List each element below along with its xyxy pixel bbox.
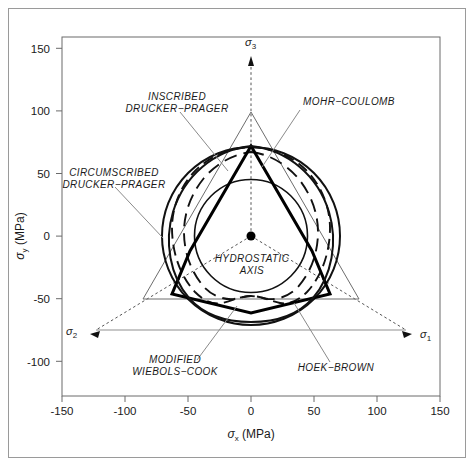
annotation-line-1: CIRCUMSCRIBED — [69, 167, 159, 178]
y-tick-label: -50 — [33, 293, 50, 305]
x-tick-label: -150 — [50, 405, 73, 417]
annotation-line-1: HOEK−BROWN — [298, 362, 375, 373]
annotation-line-1: MODIFIED — [149, 354, 201, 365]
hydrostatic-axis-label: HYDROSTATIC AXIS — [215, 253, 290, 276]
x-tick-label: -100 — [113, 405, 136, 417]
plot-box — [62, 37, 440, 396]
y-tick-label: 50 — [37, 168, 50, 180]
leader-circumscribed-drucker-prager — [115, 187, 163, 238]
hydrostatic-axis-dot — [247, 232, 256, 241]
y-tick-label: -100 — [27, 356, 50, 368]
x-axis-title: σx (MPa) — [227, 427, 274, 443]
svg-text:AXIS: AXIS — [239, 265, 264, 276]
sigma-2-arrowhead — [90, 331, 100, 338]
x-tick-label: 100 — [367, 405, 386, 417]
annotation-leaders — [115, 110, 330, 362]
annotation-mohr-coulomb: MOHR−COULOMB — [303, 96, 395, 107]
x-axis-title-unit: (MPa) — [239, 427, 275, 441]
leader-modified-wiebols-cook — [197, 306, 237, 360]
y-axis-tick-labels: 150 100 50 0 -50 -100 — [27, 43, 50, 368]
pi-plane-plot: 150 100 50 0 -50 -100 -150 -100 -50 0 50… — [0, 0, 476, 468]
x-tick-label: -50 — [180, 405, 197, 417]
sigma-3-arrowhead — [248, 56, 254, 66]
sigma-1-label: σ1 — [420, 328, 432, 343]
annotation-line-1: MOHR−COULOMB — [303, 96, 395, 107]
annotation-line-2: DRUCKER−PRAGER — [62, 179, 165, 190]
y-tick-label: 0 — [44, 230, 50, 242]
x-tick-label: 0 — [248, 405, 254, 417]
x-tick-label: 50 — [308, 405, 321, 417]
annotation-circumscribed-drucker-prager: CIRCUMSCRIBED DRUCKER−PRAGER — [62, 167, 165, 190]
svg-text:σy (MPa): σy (MPa) — [13, 212, 29, 259]
y-tick-label: 100 — [31, 105, 50, 117]
y-axis-title: σy (MPa) — [13, 212, 29, 259]
y-tick-label: 150 — [31, 43, 50, 55]
sigma-3-label: σ3 — [245, 36, 257, 51]
sigma-1-arrowhead — [402, 331, 412, 338]
annotation-modified-wiebols-cook: MODIFIED WIEBOLS−COOK — [132, 354, 219, 377]
annotation-inscribed-drucker-prager: INSCRIBED DRUCKER−PRAGER — [125, 91, 228, 114]
annotation-line-2: WIEBOLS−COOK — [132, 366, 219, 377]
annotation-line-1: INSCRIBED — [148, 91, 206, 102]
x-tick-label: 150 — [430, 405, 449, 417]
sigma-2-label: σ2 — [66, 325, 78, 340]
y-axis-ticks — [56, 48, 62, 361]
x-axis-tick-labels: -150 -100 -50 0 50 100 150 — [50, 405, 449, 417]
x-axis-ticks — [62, 396, 440, 402]
y-axis-title-unit: (MPa) — [13, 212, 27, 248]
svg-text:HYDROSTATIC: HYDROSTATIC — [215, 253, 290, 264]
annotation-line-2: DRUCKER−PRAGER — [125, 103, 228, 114]
sigma-1-axis-line — [251, 236, 406, 330]
leader-hoek-brown — [294, 303, 330, 362]
svg-text:σx (MPa): σx (MPa) — [227, 427, 274, 443]
annotation-hoek-brown: HOEK−BROWN — [298, 362, 375, 373]
figure-root: 150 100 50 0 -50 -100 -150 -100 -50 0 50… — [0, 0, 476, 468]
